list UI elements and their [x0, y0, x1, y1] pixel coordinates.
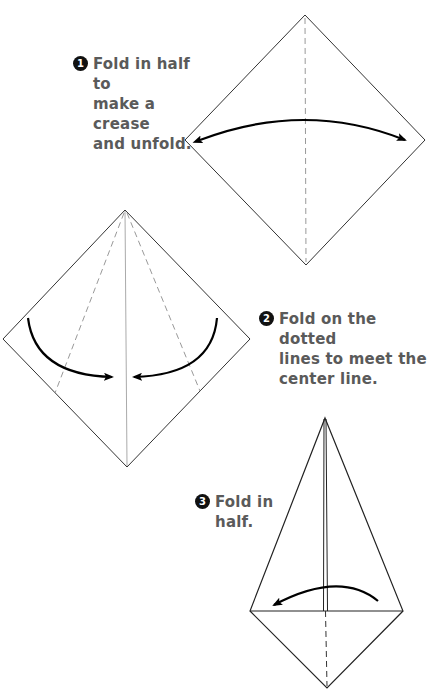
step-text: Fold in half.: [215, 492, 273, 532]
step-text: Fold in half to make a crease and unfold…: [93, 54, 193, 154]
step-text-line: Fold in half to: [93, 54, 193, 94]
kite-center-edge-right: [326, 419, 328, 611]
step-text-line: Fold in: [215, 492, 273, 512]
step-2-instruction: 2 Fold on the dotted lines to meet the c…: [259, 309, 433, 389]
step-text-line: make a crease: [93, 94, 193, 134]
vertical-crease-line: [305, 18, 306, 262]
left-curved-arrow-icon: [28, 318, 112, 377]
step-text-line: lines to meet the: [279, 349, 433, 369]
step-number-badge: 2: [259, 311, 274, 326]
diagram-step-3: [250, 418, 403, 688]
diagram-step-2: [3, 210, 250, 467]
step-text: Fold on the dotted lines to meet the cen…: [279, 309, 433, 389]
step-text-line: half.: [215, 512, 273, 532]
right-curved-arrow-icon: [134, 318, 217, 377]
step-text-line: and unfold.: [93, 134, 193, 154]
fold-arrow-icon: [274, 586, 378, 605]
step-text-line: Fold on the dotted: [279, 309, 433, 349]
step-number-badge: 1: [73, 56, 88, 71]
center-line: [125, 211, 127, 466]
double-arrow-icon: [200, 120, 405, 140]
step-3-instruction: 3 Fold in half.: [195, 492, 275, 532]
kite-center-dashed-line: [326, 611, 328, 686]
left-fold-dashed-line: [55, 213, 124, 393]
step-1-instruction: 1 Fold in half to make a crease and unfo…: [73, 54, 193, 154]
kite-center-edge-left: [324, 419, 325, 611]
step-number-badge: 3: [195, 494, 210, 509]
step-text-line: center line.: [279, 369, 433, 389]
diagram-step-1: [185, 15, 425, 265]
